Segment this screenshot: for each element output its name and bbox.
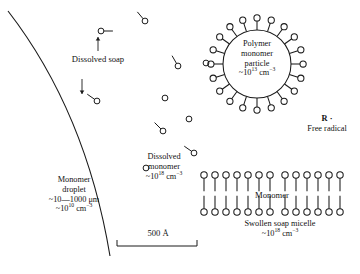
- micelle-head-icon: [212, 172, 218, 178]
- micelle-head-icon: [256, 172, 262, 178]
- micelle-head-icon: [315, 209, 321, 215]
- micelle-head-icon: [293, 209, 299, 215]
- micelle-head-icon: [337, 209, 343, 215]
- particle-soap-head-icon: [240, 105, 246, 111]
- micelle-head-icon: [315, 172, 321, 178]
- particle-soap-tail-icon: [232, 29, 237, 36]
- label-dissolved-monomer: Dissolved monomer ~1018 cm−3: [118, 152, 210, 181]
- micelle-head-icon: [326, 209, 332, 215]
- particle-soap-head-icon: [254, 15, 260, 21]
- soap-head-icon: [142, 18, 148, 24]
- monomer-dot-icon: [186, 116, 192, 122]
- soap-head-icon: [98, 28, 104, 34]
- label-scale-bar: 500 Å: [128, 228, 188, 238]
- soap-tail-icon: [155, 123, 161, 129]
- particle-soap-head-icon: [227, 98, 233, 104]
- particle-soap-head-icon: [254, 107, 260, 113]
- particle-soap-head-icon: [268, 105, 274, 111]
- soap-head-icon: [94, 98, 100, 104]
- particle-soap-tail-icon: [232, 92, 237, 99]
- particle-soap-tail-icon: [277, 92, 282, 99]
- dissolved-soap-arrow-2-head: [80, 90, 85, 94]
- soap-tail-icon: [172, 56, 177, 64]
- soap-head-icon: [160, 128, 166, 134]
- particle-soap-tail-icon: [268, 96, 271, 105]
- label-dissolved-soap: Dissolved soap: [38, 54, 158, 64]
- soap-head-icon: [175, 63, 181, 69]
- particle-soap-tail-icon: [268, 23, 271, 32]
- soap-tail-icon: [87, 94, 94, 99]
- particle-soap-tail-icon: [285, 84, 292, 89]
- micelle-head-icon: [326, 172, 332, 178]
- label-monomer-droplet: Monomer droplet ~10—1000 μm ~1010 cm−3: [18, 175, 130, 214]
- micelle-head-icon: [304, 172, 310, 178]
- label-monomer-interior: Monomer: [237, 190, 307, 200]
- particle-soap-head-icon: [281, 24, 287, 30]
- micelle-head-icon: [223, 209, 229, 215]
- micelle-head-icon: [282, 209, 288, 215]
- micelle-head-icon: [337, 172, 343, 178]
- micelle-head-icon: [245, 172, 251, 178]
- micelle-head-icon: [267, 209, 273, 215]
- particle-soap-tail-icon: [222, 84, 229, 89]
- micelle-head-icon: [293, 172, 299, 178]
- label-swollen-soap-micelle: Swollen soap micelle ~1018 cm−3: [213, 219, 347, 239]
- scale-bar: [117, 240, 197, 246]
- particle-soap-head-icon: [291, 88, 297, 94]
- micelle-head-icon: [267, 172, 273, 178]
- micelle-head-icon: [234, 172, 240, 178]
- particle-soap-tail-icon: [277, 29, 282, 36]
- dissolved-soap-molecules: [87, 12, 197, 156]
- micelle-head-icon: [223, 172, 229, 178]
- micelle-head-icon: [282, 172, 288, 178]
- particle-soap-head-icon: [298, 75, 304, 81]
- particle-soap-head-icon: [281, 98, 287, 104]
- particle-soap-head-icon: [227, 24, 233, 30]
- micelle-head-icon: [256, 209, 262, 215]
- particle-soap-head-icon: [240, 17, 246, 23]
- label-free-radical: R · Free radical: [296, 114, 358, 134]
- soap-tail-icon: [184, 146, 191, 151]
- particle-soap-head-icon: [210, 75, 216, 81]
- soap-tail-icon: [137, 12, 143, 19]
- micelle-head-icon: [304, 209, 310, 215]
- micelle-head-icon: [201, 209, 207, 215]
- monomer-dot-icon: [162, 95, 168, 101]
- particle-soap-tail-icon: [244, 23, 247, 32]
- dissolved-soap-arrow-head: [96, 37, 101, 41]
- monomer-droplet-boundary: [8, 11, 110, 256]
- particle-soap-tail-icon: [244, 96, 247, 105]
- particle-soap-head-icon: [268, 17, 274, 23]
- micelle-head-icon: [245, 209, 251, 215]
- label-polymer-monomer-particle: Polymer monomer particle ~1013 cm−3: [218, 39, 296, 78]
- particle-soap-head-icon: [210, 47, 216, 53]
- particle-soap-head-icon: [298, 47, 304, 53]
- particle-soap-head-icon: [300, 61, 306, 67]
- micelle-head-icon: [212, 209, 218, 215]
- particle-soap-head-icon: [217, 88, 223, 94]
- pointer-arrows: [80, 37, 101, 94]
- micelle-head-icon: [234, 209, 240, 215]
